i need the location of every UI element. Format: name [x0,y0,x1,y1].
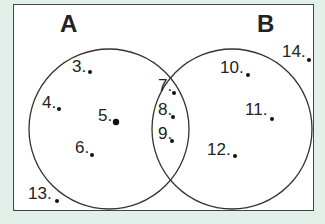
element-label: 8. [158,100,172,120]
element-dot [246,73,250,77]
set-a-label: A [60,10,77,38]
element-dot [88,70,92,74]
element-label: 9. [158,124,172,144]
element-dot [90,153,94,157]
element-label: 12. [207,140,231,160]
element-label: 13. [28,184,52,204]
element-label: 7. [158,76,172,96]
element-label: 5. [98,106,112,126]
element-dot [57,107,61,111]
element-dot [233,154,237,158]
element-dot [113,119,119,125]
element-label: 11. [245,100,267,120]
element-dot [55,199,59,203]
element-label: 4. [42,93,56,113]
element-label: 6. [75,138,89,158]
element-label: 10. [220,58,244,78]
set-b-label: B [257,10,274,38]
element-dot [172,91,176,95]
element-dot [307,58,311,62]
element-label: 14. [282,42,306,62]
element-label: 3. [72,57,86,77]
element-dot [270,117,274,121]
